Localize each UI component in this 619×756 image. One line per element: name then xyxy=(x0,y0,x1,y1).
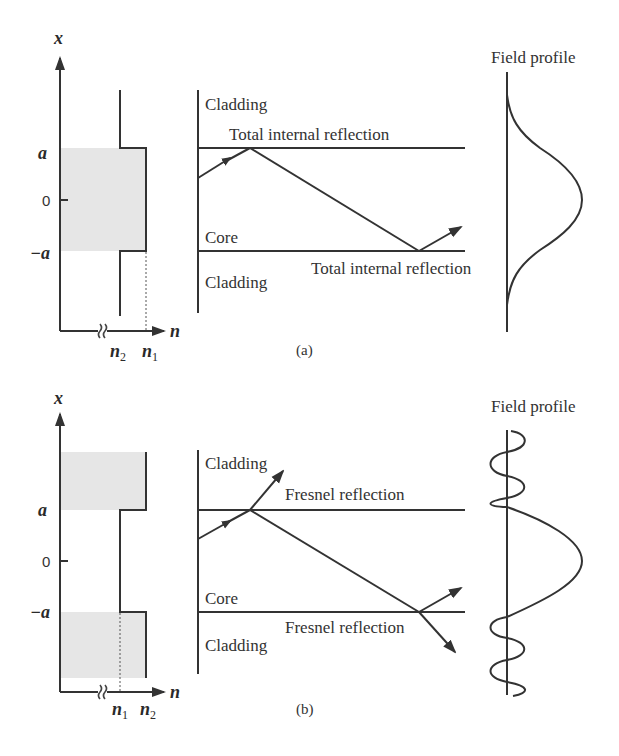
tick-a: a xyxy=(38,143,47,163)
incident-ray-arrow xyxy=(198,158,230,178)
panel-a: x n a 0 −a n2 n1 Cladding Total internal… xyxy=(30,28,582,364)
n1-label: n1 xyxy=(112,699,128,722)
cladding-shading-bottom xyxy=(61,612,146,678)
region-label-cladding-bottom: Cladding xyxy=(205,636,268,655)
transmitted-ray-bottom xyxy=(419,612,455,652)
axis-break-icon xyxy=(98,324,107,338)
axis-break-icon xyxy=(98,685,107,699)
tick-a: a xyxy=(38,500,47,520)
field-profile-a: Field profile xyxy=(491,48,582,332)
field-curve-a xyxy=(507,95,582,305)
incident-ray-arrow xyxy=(198,521,230,539)
core-shading xyxy=(61,148,146,251)
transmitted-ray-top xyxy=(250,471,283,510)
reflected-ray-a xyxy=(250,148,419,251)
ray-diagram-a: Cladding Total internal reflection Core … xyxy=(198,90,472,313)
waveguide-figure: x n a 0 −a n2 n1 Cladding Total internal… xyxy=(0,0,619,756)
ray-diagram-b: Cladding Fresnel reflection Core Fresnel… xyxy=(198,450,465,674)
region-label-cladding-top: Cladding xyxy=(205,454,268,473)
region-label-core: Core xyxy=(205,589,238,608)
region-label-cladding-bottom: Cladding xyxy=(205,273,268,292)
panel-b: x n a 0 −a n1 n2 Cladding Fresnel reflec… xyxy=(30,388,582,722)
field-curve-b xyxy=(491,431,583,696)
caption-a: (a) xyxy=(296,342,313,359)
tick-zero: 0 xyxy=(42,553,50,570)
tick-minus-a: −a xyxy=(30,602,50,622)
field-profile-title-b: Field profile xyxy=(491,397,576,416)
n2-label: n2 xyxy=(110,341,126,364)
tick-minus-a: −a xyxy=(30,243,50,263)
index-profile-b: x n a 0 −a n1 n2 xyxy=(30,388,180,722)
x-axis-label: x xyxy=(53,28,63,48)
caption-b: (b) xyxy=(296,701,314,718)
n-axis-label: n xyxy=(170,321,180,341)
tick-zero: 0 xyxy=(42,192,50,209)
n-axis-label: n xyxy=(170,682,180,702)
index-profile-a: x n a 0 −a n2 n1 xyxy=(30,28,180,364)
reflected-ray-arrow-b xyxy=(419,588,461,612)
x-axis-label: x xyxy=(53,388,63,408)
reflection-label-bottom: Total internal reflection xyxy=(311,259,472,278)
reflection-label-bottom: Fresnel reflection xyxy=(285,618,405,637)
region-label-cladding-top: Cladding xyxy=(205,95,268,114)
reflection-label-top: Fresnel reflection xyxy=(285,485,405,504)
field-profile-b: Field profile xyxy=(491,397,583,696)
reflected-ray-b xyxy=(250,510,419,612)
region-label-core: Core xyxy=(205,228,238,247)
field-profile-title-a: Field profile xyxy=(491,48,576,67)
n1-label: n1 xyxy=(142,341,158,364)
reflection-label-top: Total internal reflection xyxy=(229,125,390,144)
reflected-ray-arrow-a xyxy=(419,227,461,251)
n2-label: n2 xyxy=(140,699,156,722)
cladding-shading-top xyxy=(61,452,146,510)
